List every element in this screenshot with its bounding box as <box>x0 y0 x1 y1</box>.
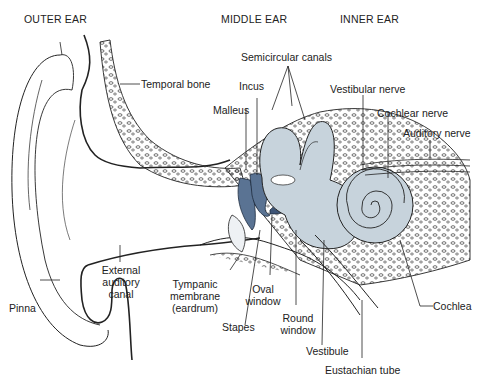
tympanic-membrane <box>228 215 245 252</box>
label-external-auditory-canal: External auditory canal <box>98 264 144 300</box>
label-semicircular-canals: Semicircular canals <box>241 51 332 63</box>
label-auditory-nerve: Auditory nerve <box>403 127 471 139</box>
label-pinna: Pinna <box>9 302 36 314</box>
label-stapes: Stapes <box>222 321 255 333</box>
label-vestibule: Vestibule <box>306 345 349 357</box>
region-outer-ear: OUTER EAR <box>24 13 87 25</box>
label-cochlea: Cochlea <box>433 300 472 312</box>
region-inner-ear: INNER EAR <box>340 13 399 25</box>
label-malleus: Malleus <box>213 104 249 116</box>
label-cochlear-nerve: Cochlear nerve <box>377 107 448 119</box>
label-temporal-bone: Temporal bone <box>141 78 210 90</box>
region-middle-ear: MIDDLE EAR <box>221 13 287 25</box>
label-round-window: Round window <box>278 312 318 336</box>
pinna-helix <box>35 55 100 325</box>
label-tympanic-membrane: Tympanic membrane (eardrum) <box>166 278 224 314</box>
cochlea-shape <box>337 167 413 243</box>
label-oval-window: Oval window <box>243 283 283 307</box>
label-incus: Incus <box>239 80 264 92</box>
label-eustachian-tube: Eustachian tube <box>325 364 400 376</box>
label-vestibular-nerve: Vestibular nerve <box>330 83 405 95</box>
